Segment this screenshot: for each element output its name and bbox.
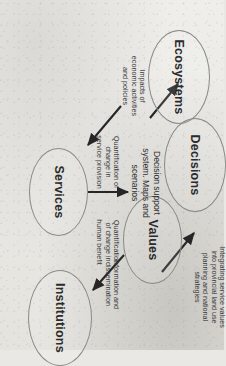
edge-label-values-to-institutions: Information and dissemination	[103, 236, 120, 332]
edge-label-institutions-to-decisions: Integrating service values into provinci…	[192, 226, 226, 348]
node-services-label: Services	[52, 165, 65, 218]
node-decisions[interactable]: Decisions	[164, 118, 226, 212]
node-services[interactable]: Services	[29, 148, 88, 236]
node-institutions[interactable]: Institutions	[28, 270, 92, 366]
node-ecosystems-label: Ecosystems	[173, 40, 186, 115]
node-ecosystems[interactable]: Ecosystems	[148, 30, 210, 124]
center-caption-decision-support: Decision support system. Maps and scenar…	[128, 128, 162, 238]
node-decisions-label: Decisions	[189, 135, 202, 196]
edge-label-decisions-to-ecosystems: Impacts of economic activities and polic…	[121, 36, 146, 136]
node-institutions-label: Institutions	[54, 283, 67, 353]
